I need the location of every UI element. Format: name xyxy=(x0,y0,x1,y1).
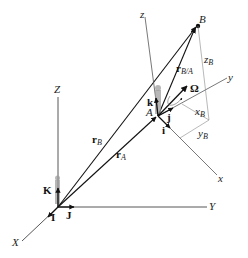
rotating-frame-diagram: Z Y X K J I rB rA rB/A B xyxy=(0,0,248,258)
moving-frame: z y x zB xB yB k j i A Ω xyxy=(139,8,233,184)
x-B-label: xB xyxy=(194,105,205,119)
r-B-vector xyxy=(58,27,196,207)
r-A-label: rA xyxy=(116,148,126,162)
point-B-label: B xyxy=(199,13,206,25)
Z-axis-label: Z xyxy=(54,83,61,95)
A-label: A xyxy=(145,106,153,118)
omega-vector xyxy=(158,86,187,116)
y-axis-label: y xyxy=(227,71,233,83)
J-label: J xyxy=(66,209,72,221)
X-axis-label: X xyxy=(11,236,20,248)
Y-axis-label: Y xyxy=(209,200,217,212)
z-B-label: zB xyxy=(203,53,213,67)
x-axis-label: x xyxy=(217,172,223,184)
K-label: K xyxy=(43,184,52,196)
j-label: j xyxy=(166,111,171,123)
I-label: I xyxy=(51,211,55,223)
position-vectors: rB rA rB/A xyxy=(58,27,196,207)
r-B-label: rB xyxy=(92,133,102,147)
i-label: i xyxy=(162,124,165,136)
z-axis-label: z xyxy=(139,8,145,20)
fixed-frame: Z Y X K J I xyxy=(11,83,217,248)
omega-label: Ω xyxy=(190,82,199,94)
r-A-vector xyxy=(58,117,156,207)
r-B-A-label: rB/A xyxy=(176,62,193,76)
y-B-label: yB xyxy=(197,127,208,141)
